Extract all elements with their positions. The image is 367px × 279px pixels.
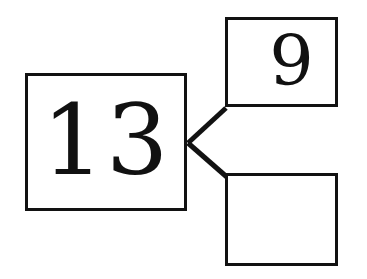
part-number-box-bottom[interactable] [225, 173, 338, 266]
connector-line-bottom [188, 143, 228, 178]
whole-number-value: 13 [42, 91, 171, 189]
part-number-value-top: 9 [269, 26, 314, 96]
whole-number-box[interactable]: 13 [25, 73, 187, 211]
part-number-box-top[interactable]: 9 [225, 17, 338, 107]
number-bond-diagram: 13 9 [0, 0, 367, 279]
connector-line-top [188, 108, 226, 143]
